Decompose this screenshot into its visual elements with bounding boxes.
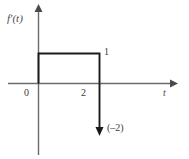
pulse-height-label: 1 [104, 47, 109, 57]
derivative-graph-figure: f'(t) t 0 2 1 (–2) [0, 0, 189, 159]
x-axis-arrowhead [170, 80, 178, 88]
x-tick-label-2: 2 [81, 88, 86, 98]
origin-tick-label: 0 [24, 88, 29, 98]
impulse-arrowhead [96, 127, 104, 136]
x-axis-label: t [163, 88, 166, 98]
impulse-value-label: (–2) [107, 123, 124, 133]
graph-canvas [0, 0, 189, 159]
pulse-curve [39, 54, 100, 84]
y-axis-arrowhead [35, 4, 43, 12]
y-axis-label: f'(t) [7, 13, 23, 24]
